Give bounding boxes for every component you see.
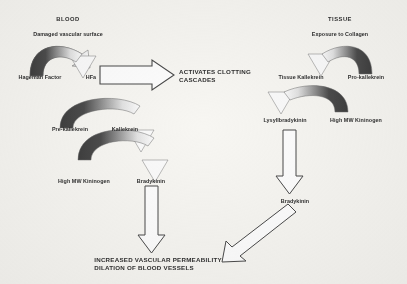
label-tissue-trigger: Exposure to Collagen xyxy=(312,31,368,38)
label-blood-trigger: Damaged vascular surface xyxy=(33,31,103,38)
label-hfa: HFa xyxy=(86,74,96,81)
label-outcome: INCREASED VASCULAR PERMEABILITY DILATION… xyxy=(94,256,222,272)
block-arrow-down-icon-left xyxy=(138,186,165,253)
label-pro-kallekrein: Pro-kallekrein xyxy=(348,74,384,81)
heading-blood: BLOOD xyxy=(56,16,79,23)
label-lysyllbradykinin: Lysyllbradykinin xyxy=(263,117,306,124)
label-pre-kallekrein: Pre-kallekrein xyxy=(52,126,88,133)
block-arrow-right-icon xyxy=(100,60,174,90)
arrow-layer xyxy=(0,0,407,284)
label-bradykinin-tissue: Bradykinin xyxy=(281,198,309,205)
label-bradykinin-blood: Bradykinin xyxy=(137,178,165,185)
heading-tissue: TISSUE xyxy=(328,16,352,23)
curved-arrow-tissue-step-1 xyxy=(308,46,372,76)
label-activates-clotting-cascades: ACTIVATES CLOTTING CASCADES xyxy=(179,68,251,84)
label-hageman-factor: Hageman Factor xyxy=(19,74,62,81)
label-kallekrein: Kallekrein xyxy=(112,126,138,133)
block-arrow-down-icon-right xyxy=(276,130,303,194)
curved-arrow-tissue-step-2 xyxy=(268,86,348,114)
label-high-mw-kininogen-blood: High MW Kininogen xyxy=(58,178,110,185)
block-arrow-diagonal-down-left-icon xyxy=(222,204,296,262)
curved-arrow-blood-step-3 xyxy=(78,130,168,182)
diagram-canvas: BLOOD Damaged vascular surface Hageman F… xyxy=(0,0,407,284)
label-high-mw-kininogen-tissue: High MW Kininogen xyxy=(330,117,382,124)
label-tissue-kallekrein: Tissue Kallekrein xyxy=(278,74,323,81)
